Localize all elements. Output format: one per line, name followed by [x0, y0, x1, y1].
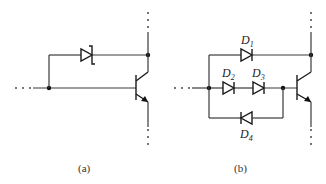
- circuit-figure: (a) D1 D2 D3: [0, 0, 326, 184]
- d1-label: D1: [240, 33, 254, 49]
- emitter-continuation-dots: [147, 129, 149, 145]
- d3-label: D3: [251, 66, 265, 82]
- caption-a: (a): [78, 162, 91, 175]
- panel-a: (a): [15, 12, 150, 175]
- caption-b: (b): [234, 162, 247, 175]
- input-continuation-dots: [174, 87, 190, 89]
- diode-d4-icon: [241, 112, 252, 124]
- emitter-continuation-dots: [310, 129, 312, 145]
- collector-continuation-dots: [310, 12, 312, 28]
- diode-d3-icon: [253, 82, 264, 94]
- diode-d2-icon: [223, 82, 234, 94]
- panel-b: D1 D2 D3 D4: [174, 12, 313, 175]
- npn-transistor-icon: [136, 55, 148, 127]
- npn-transistor-icon: [297, 55, 311, 127]
- collector-continuation-dots: [147, 12, 149, 28]
- d4-label: D4: [239, 127, 253, 143]
- input-continuation-dots: [15, 87, 31, 89]
- d2-label: D2: [221, 66, 235, 82]
- diode-d1-icon: [241, 49, 252, 61]
